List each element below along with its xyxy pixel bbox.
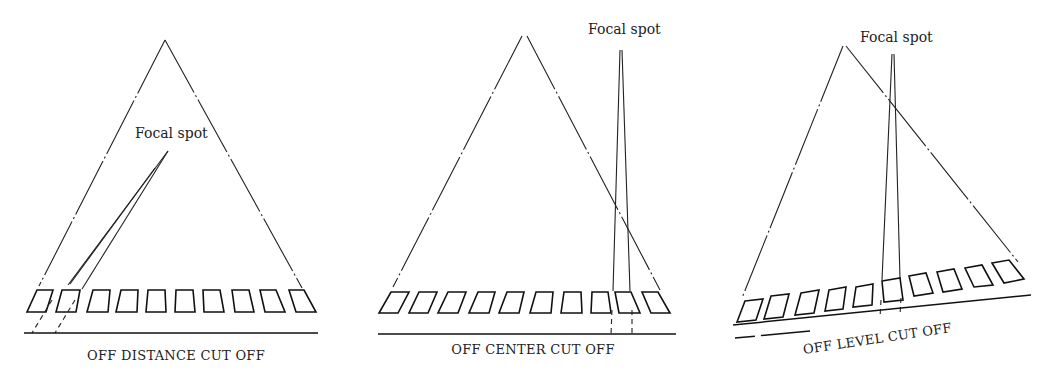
panel-caption: OFF DISTANCE CUT OFF [87,348,265,363]
focal-ray-2 [82,151,168,289]
focal-ray-1 [882,54,892,280]
panel-caption: OFF LEVEL CUT OFF [802,320,953,357]
beam-right-edge [846,46,1018,262]
beam-right-edge [165,40,302,288]
film-baseline-lower [735,331,810,338]
grid-strips [379,292,670,313]
film-baseline-upper [733,295,1031,325]
panel-caption: OFF CENTER CUT OFF [451,342,615,357]
focal-spot-label: Focal spot [588,21,661,37]
beam-left-edge [393,36,522,287]
focal-spot-label: Focal spot [860,29,933,45]
beam-left-edge [39,40,165,286]
focal-ray-3 [70,168,155,284]
focal-ray-2 [894,54,900,279]
focal-spot-label: Focal spot [135,125,208,141]
focal-ray-1 [613,50,620,291]
beam-right-edge [527,36,660,290]
focal-ray-2 [622,50,630,291]
panel-off-level: Focal spot OFF LEVEL CUT OFF [733,29,1031,357]
beam-left-edge [742,46,843,298]
projection-dash-1 [880,300,881,318]
panel-off-distance: Focal spot OFF DISTANCE CUT OFF [24,40,318,363]
grid-cutoff-diagram: Focal spot OFF DISTANCE CUT OFF Focal sp… [0,0,1044,374]
panel-off-center: Focal spot OFF CENTER CUT OFF [378,21,676,357]
